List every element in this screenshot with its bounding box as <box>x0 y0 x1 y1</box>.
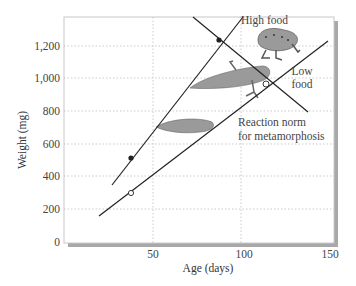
y-tick: 1,200 <box>34 40 60 53</box>
reaction-norm-label-line1: Reaction norm <box>238 116 306 128</box>
low-food-start-marker <box>128 190 133 195</box>
low-food-label-line1: Low <box>291 65 313 77</box>
high-food-label: High food <box>241 14 288 27</box>
y-axis-ticks: 0 200 400 600 800 1,000 1,200 <box>34 40 60 248</box>
y-tick: 200 <box>43 203 61 215</box>
x-tick: 100 <box>235 248 253 260</box>
y-tick: 0 <box>54 236 60 248</box>
x-tick: 50 <box>147 248 159 260</box>
low-food-label-line2: food <box>291 78 312 90</box>
chart: 0 200 400 600 800 1,000 1,200 50 100 150… <box>0 0 356 286</box>
y-tick: 800 <box>43 105 61 117</box>
x-tick: 150 <box>321 248 339 260</box>
high-food-metamorphosis-marker <box>216 37 221 42</box>
reaction-norm-label-line2: for metamorphosis <box>238 130 325 143</box>
high-food-start-marker <box>128 155 133 160</box>
y-tick: 400 <box>43 170 61 182</box>
low-food-metamorphosis-marker <box>263 81 269 87</box>
y-tick: 600 <box>43 138 61 150</box>
x-axis-label: Age (days) <box>183 262 234 275</box>
y-axis-label: Weight (mg) <box>16 111 29 169</box>
y-tick: 1,000 <box>34 72 60 85</box>
x-axis-ticks: 50 100 150 <box>147 248 339 260</box>
